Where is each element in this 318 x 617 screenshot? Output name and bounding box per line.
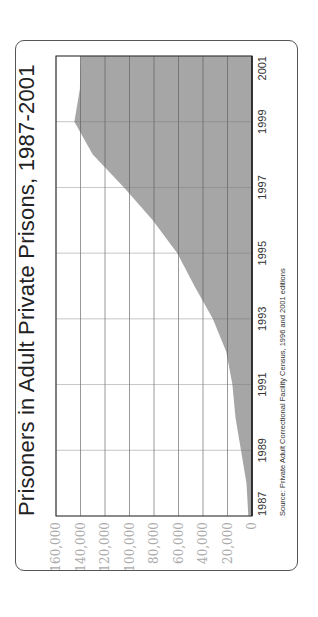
x-tick-label: 1997 — [256, 175, 268, 199]
chart-card: Prisoners in Adult Private Prisons, 1987… — [15, 40, 298, 571]
area-chart: 020,00040,00060,00080,000100,000120,0001… — [16, 39, 299, 570]
y-tick-label: 160,000 — [49, 522, 63, 570]
x-tick-label: 1993 — [256, 307, 268, 331]
y-tick-label: 20,000 — [221, 522, 235, 564]
x-tick-label: 2001 — [256, 56, 268, 80]
page: Prisoners in Adult Private Prisons, 1987… — [0, 0, 318, 617]
x-tick-label: 1991 — [256, 372, 268, 396]
x-tick-label: 1989 — [256, 438, 268, 462]
y-tick-label: 80,000 — [147, 522, 161, 564]
x-tick-label: 1987 — [256, 492, 268, 516]
y-tick-label: 100,000 — [123, 522, 137, 570]
y-tick-label: 0 — [245, 522, 259, 530]
y-tick-label: 60,000 — [172, 522, 186, 564]
y-tick-label: 120,000 — [98, 522, 112, 570]
y-tick-label: 140,000 — [74, 522, 88, 570]
y-tick-label: 40,000 — [196, 522, 210, 564]
x-tick-label: 1995 — [256, 241, 268, 265]
x-tick-label: 1999 — [256, 109, 268, 133]
source-note: Source: Private Adult Correctional Facil… — [278, 268, 287, 516]
